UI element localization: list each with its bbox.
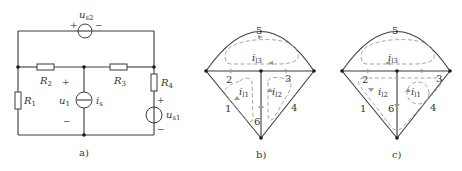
node bbox=[340, 69, 344, 73]
us2-minus-sign: − bbox=[95, 20, 103, 30]
node bbox=[259, 136, 263, 140]
r1-label: R1 bbox=[23, 95, 36, 108]
node bbox=[395, 69, 399, 73]
caption-a: a) bbox=[79, 147, 89, 158]
caption-b: b) bbox=[256, 149, 266, 160]
resistor-r1 bbox=[15, 92, 21, 109]
voltage-source-us2 bbox=[78, 24, 92, 38]
node bbox=[395, 136, 399, 140]
loop-label-il3: il3 bbox=[252, 52, 262, 65]
us1-plus-sign: + bbox=[157, 95, 165, 105]
node bbox=[152, 65, 156, 69]
figure-c-graph: 5 2 3 1 4 6 il3 il1 il2 c) bbox=[340, 25, 452, 160]
r4-label: R4 bbox=[160, 77, 174, 90]
current-source-is bbox=[76, 92, 92, 108]
node bbox=[16, 65, 20, 69]
r3-label: R3 bbox=[113, 75, 126, 88]
branch-label-2: 2 bbox=[226, 74, 232, 85]
figure-a-circuit: + − us2 R2 R3 R1 is + u1 − R4 bbox=[15, 9, 181, 158]
u1-minus-sign: − bbox=[63, 116, 71, 126]
branch-label-1: 1 bbox=[225, 103, 231, 114]
u1-label: u1 bbox=[59, 95, 70, 108]
branch-label-3: 3 bbox=[436, 73, 442, 84]
loop-label-il2: il2 bbox=[378, 86, 388, 99]
branch-label-6: 6 bbox=[254, 116, 260, 127]
node bbox=[312, 69, 316, 73]
us2-label: us2 bbox=[79, 9, 94, 22]
u1-plus-sign: + bbox=[62, 77, 70, 87]
figure-b-graph: 5 2 3 1 4 6 il3 il1 il2 b) bbox=[204, 25, 316, 160]
resistor-r4 bbox=[151, 74, 157, 91]
branch-label-6: 6 bbox=[388, 103, 394, 114]
loop-label-il1: il1 bbox=[411, 86, 421, 99]
caption-c: c) bbox=[392, 149, 402, 160]
node bbox=[204, 69, 208, 73]
circuit-figure: + − us2 R2 R3 R1 is + u1 − R4 bbox=[0, 0, 462, 171]
us1-label: us1 bbox=[166, 109, 181, 122]
voltage-source-us1 bbox=[146, 107, 162, 123]
branch-label-5: 5 bbox=[256, 25, 262, 36]
loop-label-il1: il1 bbox=[239, 86, 249, 99]
resistor-r3 bbox=[110, 64, 127, 70]
branch-label-2: 2 bbox=[362, 74, 368, 85]
branch-label-4: 4 bbox=[430, 102, 436, 113]
node bbox=[448, 69, 452, 73]
branch-label-3: 3 bbox=[285, 73, 291, 84]
node bbox=[82, 133, 86, 137]
r2-label: R2 bbox=[39, 75, 52, 88]
us1-minus-sign: − bbox=[157, 124, 165, 134]
branch-label-5: 5 bbox=[392, 25, 398, 36]
loop-label-il2: il2 bbox=[272, 86, 282, 99]
is-label: is bbox=[96, 95, 103, 108]
node bbox=[259, 69, 263, 73]
us2-plus-sign: + bbox=[70, 20, 78, 30]
resistor-r2 bbox=[37, 64, 54, 70]
branch-5 bbox=[342, 32, 450, 72]
node bbox=[82, 65, 86, 69]
branch-label-1: 1 bbox=[360, 103, 366, 114]
branch-label-4: 4 bbox=[291, 102, 297, 113]
